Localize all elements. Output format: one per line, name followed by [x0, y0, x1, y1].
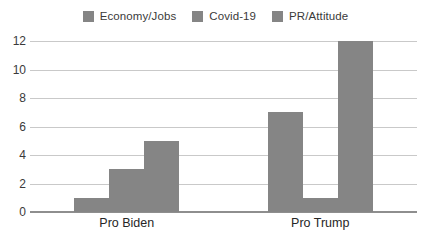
y-axis-tick-label: 10 [13, 63, 26, 76]
legend-item-pr-attitude[interactable]: PR/Attitude [272, 10, 348, 23]
legend-swatch-icon [192, 11, 203, 22]
chart-legend: Economy/Jobs Covid-19 PR/Attitude [0, 5, 431, 27]
bar[interactable] [268, 112, 303, 212]
legend-swatch-icon [272, 11, 283, 22]
legend-item-covid-19[interactable]: Covid-19 [192, 10, 256, 23]
bar[interactable] [109, 169, 144, 212]
legend-label: PR/Attitude [289, 10, 348, 23]
y-axis-labels: 024681012 [0, 41, 26, 212]
legend-swatch-icon [83, 11, 94, 22]
y-axis-tick-label: 8 [19, 92, 26, 105]
legend-label: Covid-19 [209, 10, 256, 23]
y-axis-tick-label: 0 [19, 206, 26, 219]
y-axis-tick-label: 4 [19, 149, 26, 162]
y-axis-tick-label: 12 [13, 35, 26, 48]
bar[interactable] [144, 141, 179, 212]
bar[interactable] [74, 198, 109, 212]
legend-label: Economy/Jobs [100, 10, 177, 23]
bar[interactable] [338, 41, 373, 212]
x-axis-tick-label: Pro Trump [291, 216, 349, 231]
x-axis-labels: Pro BidenPro Trump [30, 216, 417, 236]
legend-item-economy-jobs[interactable]: Economy/Jobs [83, 10, 177, 23]
plot-area [30, 41, 417, 212]
y-axis-tick-label: 6 [19, 120, 26, 133]
x-axis-tick-label: Pro Biden [99, 216, 154, 231]
y-axis-tick-label: 2 [19, 177, 26, 190]
bar-chart: Economy/Jobs Covid-19 PR/Attitude 024681… [0, 0, 431, 248]
bar[interactable] [303, 198, 338, 212]
